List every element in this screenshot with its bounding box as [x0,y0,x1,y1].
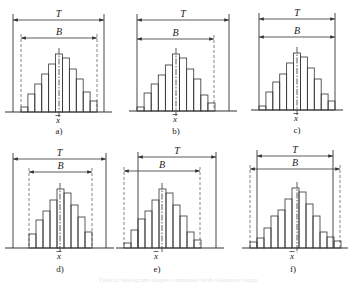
histogram-bar [158,75,165,111]
histogram-bar [313,216,320,248]
histogram-bar [307,68,314,110]
histogram-bar [306,204,313,248]
histogram-bar [64,193,71,248]
histogram-bar [271,216,278,248]
histogram-bar [201,95,208,111]
spread-label: B [294,25,300,36]
histogram-bar [124,243,131,248]
histogram-bar [50,200,57,248]
tolerance-label: T [56,8,63,19]
histogram-bar [278,210,285,248]
histogram-bar [194,79,201,111]
histogram-bar [137,107,144,111]
histogram-bar [328,101,335,110]
histogram-figure: TBxa)TBxb)TBxc)TBxd)TBxe)TBxf) [0,0,356,290]
histogram-bar [292,188,299,248]
histogram-bar [300,57,307,110]
tolerance-label: T [292,144,299,155]
histogram-bar [49,64,56,112]
panel-label: f) [290,264,296,274]
panel-label: d) [56,264,64,274]
histogram-bar [152,200,159,248]
histogram-bar [299,192,306,248]
tolerance-label: T [57,147,64,158]
mean-label: x [172,114,177,124]
panel-label: a) [56,126,63,136]
histogram-bar [69,69,76,112]
histogram-bar [180,216,187,248]
spread-label: B [172,27,178,38]
spread-label: B [292,157,298,168]
tolerance-label: T [294,7,301,18]
tolerance-label: T [174,145,181,156]
histogram-bar [287,63,294,110]
mean-label: x [56,251,61,261]
histogram-bar [76,79,83,112]
histogram-bar [85,232,92,248]
histogram-bar [285,199,292,248]
histogram-bar [180,58,187,111]
histogram-bar [159,189,166,248]
histogram-bar [166,193,173,248]
histogram-bar [42,74,49,112]
histogram-bar [131,230,138,248]
histogram-bar [151,84,158,111]
panel-label: b) [172,126,180,136]
histogram-bar [21,107,28,112]
histogram-bar [138,219,145,248]
histogram-bar [71,205,78,248]
histogram-bar [250,242,257,248]
mean-label: x [55,115,60,125]
panel-label: e) [154,264,161,274]
histogram-panel-a: TBxa) [5,8,112,136]
panel-label: c) [294,125,301,135]
mean-label: x [289,251,294,261]
tolerance-label: T [180,8,187,19]
histogram-panel-b: TBxb) [129,8,237,136]
histogram-bar [321,94,328,110]
histogram-bar [259,106,266,110]
histogram-panel-e: TBxe) [116,145,224,274]
histogram-bar [57,189,64,248]
histogram-bar [273,82,280,110]
histogram-bar [28,94,35,112]
histogram-bar [83,92,90,112]
histogram-panel-c: TBxc) [251,7,343,135]
histogram-bar [187,69,194,111]
spread-label: B [57,160,63,171]
histogram-panel-f: TBxf) [242,144,348,274]
histogram-bar [314,79,321,110]
histogram-bar [264,228,271,248]
figure-caption: Typical histogram shapes compared with t… [0,276,356,284]
histogram-bar [35,84,42,112]
mean-label: x [293,113,298,123]
histogram-bar [43,211,50,248]
histogram-bar [320,232,327,248]
mean-label: x [153,251,158,261]
histogram-bar [62,58,69,112]
histogram-bar [90,101,97,112]
histogram-panel-d: TBxd) [5,147,114,274]
histogram-bar [165,65,172,111]
histogram-bar [78,217,85,248]
histogram-bar [173,205,180,248]
histogram-bar [29,234,36,248]
histogram-bar [36,220,43,248]
histogram-bar [145,211,152,248]
spread-label: B [159,159,165,170]
histogram-bar [144,93,151,111]
spread-label: B [56,26,62,37]
histogram-bar [266,92,273,110]
histogram-bar [280,74,287,110]
histogram-bar [257,238,264,248]
histogram-bar [187,232,194,248]
